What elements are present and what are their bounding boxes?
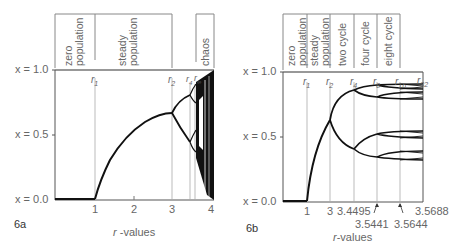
region-four-cycle: four cycle	[360, 21, 371, 66]
figure-label-6b: 6b	[246, 222, 258, 234]
marker-r4: r4	[350, 76, 357, 89]
x-tick: 3.5441	[355, 218, 389, 230]
region-eight-cycle: eight cycle	[383, 16, 394, 66]
region-steady-population: steady population	[309, 18, 331, 66]
x-tick: 1	[304, 205, 310, 217]
marker-r2: r2	[326, 76, 333, 89]
region-zero-population: zero population	[286, 18, 308, 66]
region-label-line: population	[320, 18, 331, 66]
x-tick: 3.5688	[415, 205, 449, 217]
x-tick: 3.5644	[394, 218, 428, 230]
y-label-mid: x = 0.5	[243, 130, 276, 142]
marker-r16: r16	[395, 76, 406, 89]
x-axis-label-text: -values	[337, 231, 372, 243]
region-two-cycle: two cycle	[337, 23, 348, 66]
x-tick: 3.4495	[337, 205, 371, 217]
region-label-line: population	[297, 18, 308, 66]
marker-r32: r32	[417, 75, 428, 88]
x-tick: 3	[327, 205, 333, 217]
x-axis-label: r-values	[333, 231, 372, 243]
y-label-top: x = 1.0	[243, 65, 276, 77]
marker-r1: r1	[303, 76, 310, 89]
marker-r8: r8	[373, 76, 380, 89]
y-label-bottom: x = 0.0	[243, 195, 276, 207]
